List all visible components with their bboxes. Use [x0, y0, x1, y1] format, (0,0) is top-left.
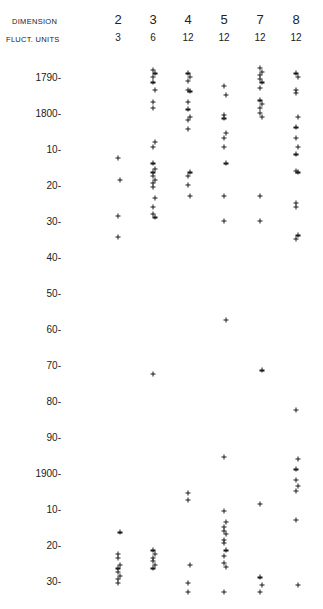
plus-marker-icon — [188, 562, 193, 567]
fluct-units-value: 12 — [218, 32, 229, 43]
plus-marker-icon — [260, 114, 265, 119]
dimension-value: 2 — [114, 12, 121, 27]
plus-marker-icon — [188, 193, 193, 198]
plus-marker-icon — [224, 564, 229, 569]
plus-marker-icon — [118, 177, 123, 182]
y-tick-label: 20- — [47, 540, 61, 551]
plus-marker-icon — [186, 174, 191, 179]
plus-marker-icon — [260, 368, 265, 373]
y-tick-label: 1800- — [35, 108, 61, 119]
y-tick-label: 80- — [47, 396, 61, 407]
plus-marker-icon — [222, 454, 227, 459]
plus-marker-icon — [258, 85, 263, 90]
fluct-units-value: 12 — [290, 32, 301, 43]
plus-marker-icon — [294, 91, 299, 96]
fluct-units-value: 12 — [254, 32, 265, 43]
plus-marker-icon — [151, 566, 156, 571]
y-tick-label: 50- — [47, 288, 61, 299]
y-tick-label: 10- — [47, 144, 61, 155]
plus-marker-icon — [258, 193, 263, 198]
y-tick-label: 10- — [47, 504, 61, 515]
plus-marker-icon — [294, 125, 299, 130]
plus-marker-icon — [153, 87, 158, 92]
plus-marker-icon — [222, 193, 227, 198]
plus-marker-icon — [294, 152, 299, 157]
plus-marker-icon — [294, 517, 299, 522]
dimension-value: 4 — [184, 12, 191, 27]
plus-marker-icon — [296, 170, 301, 175]
plus-marker-icon — [294, 204, 299, 209]
plus-marker-icon — [294, 237, 299, 242]
plus-marker-icon — [222, 508, 227, 513]
plus-marker-icon — [222, 145, 227, 150]
plus-marker-icon — [116, 156, 121, 161]
plus-marker-icon — [186, 107, 191, 112]
plus-marker-icon — [186, 127, 191, 132]
plus-marker-icon — [151, 105, 156, 110]
plus-marker-icon — [294, 489, 299, 494]
plus-marker-icon — [224, 548, 229, 553]
plus-marker-icon — [151, 75, 156, 80]
plus-marker-icon — [186, 100, 191, 105]
y-tick-label: 90- — [47, 432, 61, 443]
plus-marker-icon — [260, 80, 265, 85]
plus-marker-icon — [186, 118, 191, 123]
plus-marker-icon — [116, 555, 121, 560]
dimension-value: 8 — [292, 12, 299, 27]
plus-marker-icon — [224, 519, 229, 524]
plus-marker-icon — [224, 161, 229, 166]
plus-marker-icon — [224, 93, 229, 98]
plus-marker-icon — [296, 582, 301, 587]
plus-marker-icon — [116, 580, 121, 585]
fluct-units-row-label: FLUCT. UNITS — [6, 35, 60, 44]
plus-marker-icon — [186, 580, 191, 585]
plus-marker-icon — [151, 80, 156, 85]
dimension-value: 3 — [149, 12, 156, 27]
plus-marker-icon — [258, 589, 263, 594]
plus-marker-icon — [224, 130, 229, 135]
plus-marker-icon — [294, 478, 299, 483]
plus-marker-icon — [296, 145, 301, 150]
plus-marker-icon — [116, 213, 121, 218]
plus-marker-icon — [116, 235, 121, 240]
plus-marker-icon — [222, 589, 227, 594]
plus-marker-icon — [224, 318, 229, 323]
plus-marker-icon — [151, 145, 156, 150]
plus-marker-icon — [186, 589, 191, 594]
plus-marker-icon — [296, 114, 301, 119]
plus-marker-icon — [296, 483, 301, 488]
y-tick-label: 40- — [47, 252, 61, 263]
plus-marker-icon — [294, 408, 299, 413]
plus-marker-icon — [260, 582, 265, 587]
plus-marker-icon — [296, 456, 301, 461]
fluct-units-value: 6 — [150, 32, 156, 43]
fluct-units-value: 3 — [115, 32, 121, 43]
plus-marker-icon — [151, 100, 156, 105]
y-tick-label: 60- — [47, 324, 61, 335]
plus-marker-icon — [153, 215, 158, 220]
y-tick-label: 20- — [47, 180, 61, 191]
plus-marker-icon — [296, 75, 301, 80]
plus-marker-icon — [151, 372, 156, 377]
y-tick-label: 30- — [47, 576, 61, 587]
plus-marker-icon — [186, 78, 191, 83]
plus-marker-icon — [222, 219, 227, 224]
dimension-value: 7 — [256, 12, 263, 27]
plus-marker-icon — [258, 575, 263, 580]
plus-marker-icon — [258, 219, 263, 224]
plus-marker-icon — [294, 467, 299, 472]
plus-marker-icon — [151, 184, 156, 189]
y-tick-label: 70- — [47, 360, 61, 371]
plus-marker-icon — [222, 136, 227, 141]
plus-marker-icon — [151, 204, 156, 209]
y-tick-label: 1790- — [35, 72, 61, 83]
dimension-row-label: DIMENSION — [12, 17, 57, 26]
plus-marker-icon — [151, 161, 156, 166]
plus-marker-icon — [188, 89, 193, 94]
plus-marker-icon — [258, 105, 263, 110]
plus-marker-icon — [186, 490, 191, 495]
plus-marker-icon — [258, 501, 263, 506]
y-tick-label: 1900- — [35, 468, 61, 479]
dimension-value: 5 — [220, 12, 227, 27]
plus-marker-icon — [222, 84, 227, 89]
